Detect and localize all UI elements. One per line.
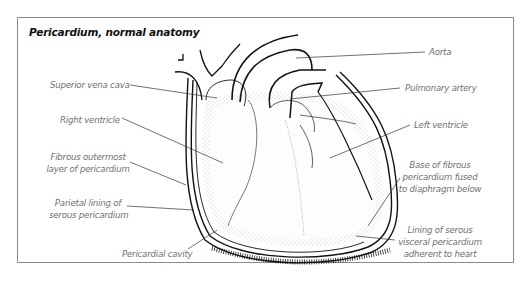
label-base-fibrous-line1: Base of fibrous	[400, 159, 480, 171]
label-base-fibrous-line2: pericardium fused	[400, 171, 480, 183]
label-lining-serous-line2: visceral pericardium	[397, 236, 483, 248]
label-left-ventricle: Left ventricle	[414, 119, 468, 131]
label-pulmonary-artery: Pulmonary artery	[405, 82, 477, 94]
label-lining-serous-line1: Lining of serous	[400, 224, 480, 236]
label-fibrous-outermost-line2: layer of pericardium	[45, 163, 131, 175]
label-lining-serous-line3: adherent to heart	[400, 248, 480, 260]
label-parietal-lining-line1: Parietal lining of	[52, 197, 124, 209]
label-pericardial-cavity: Pericardial cavity	[122, 248, 192, 260]
label-right-ventricle: Right ventricle	[60, 114, 120, 126]
label-aorta: Aorta	[429, 46, 451, 58]
label-fibrous-outermost-line1: Fibrous outermost	[48, 151, 128, 163]
label-parietal-lining-line2: serous pericardium	[49, 209, 127, 221]
label-superior-vena-cava: Superior vena cava	[50, 79, 130, 91]
label-base-fibrous-line3: to diaphragm below	[397, 183, 483, 195]
